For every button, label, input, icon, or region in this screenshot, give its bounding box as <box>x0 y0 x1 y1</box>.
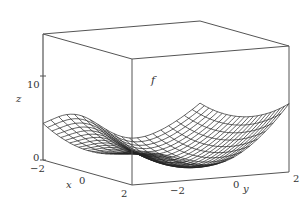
y-tick-minus2: −2 <box>170 186 185 196</box>
x-axis-label: x <box>66 180 72 190</box>
plot-canvas <box>0 0 307 211</box>
x-tick-2: 2 <box>121 189 127 199</box>
surface-plot: z 10 0 −2 x 0 2 −2 0 y 2 f <box>0 0 307 211</box>
z-axis-label: z <box>16 94 21 104</box>
y-axis-label: y <box>243 184 249 194</box>
surface-mesh <box>43 103 289 168</box>
function-label: f <box>151 75 155 86</box>
x-tick-minus2: −2 <box>30 164 45 174</box>
x-tick-0: 0 <box>79 176 85 186</box>
y-tick-2: 2 <box>293 174 299 184</box>
z-tick-10: 10 <box>27 80 40 90</box>
y-tick-0: 0 <box>233 180 239 190</box>
z-tick-0: 0 <box>33 153 39 163</box>
